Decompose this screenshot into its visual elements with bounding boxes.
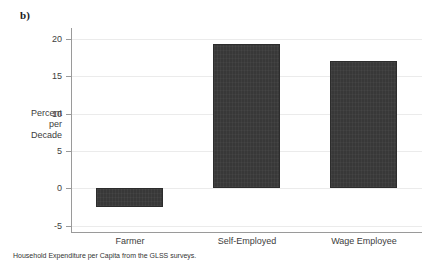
y-tick-mark--5 <box>66 226 71 227</box>
x-axis-line <box>71 232 422 233</box>
y-tick-label-5: 5 <box>22 147 62 156</box>
y-tick-mark-15 <box>66 76 71 77</box>
bar-self-employed <box>213 44 280 188</box>
y-tick-mark-5 <box>66 151 71 152</box>
y-tick-label-15: 15 <box>22 72 62 81</box>
x-axis-label-wage-employee: Wage Employee <box>304 236 424 246</box>
y-tick-mark-10 <box>66 114 71 115</box>
y-tick-label-20: 20 <box>22 35 62 44</box>
figure-panel-b: b) Percent per Decade 20151050-5 FarmerS… <box>0 0 431 264</box>
x-axis-label-self-employed: Self-Employed <box>187 236 307 246</box>
bar-wage-employee <box>330 61 397 188</box>
y-axis-title-line-3: Decade <box>6 130 62 141</box>
bar-farmer <box>96 188 163 207</box>
panel-letter: b) <box>20 9 30 21</box>
y-tick-label-10: 10 <box>22 110 62 119</box>
y-tick-mark-20 <box>66 39 71 40</box>
y-axis-title-line-2: per <box>6 119 62 130</box>
y-tick-mark-0 <box>66 188 71 189</box>
plot-area <box>71 28 422 233</box>
x-axis-label-farmer: Farmer <box>70 236 190 246</box>
gridline-20 <box>71 39 422 40</box>
y-tick-label--5: -5 <box>22 222 62 231</box>
figure-caption: Household Expenditure per Capita from th… <box>13 251 196 260</box>
y-axis-line <box>71 28 72 233</box>
y-tick-label-0: 0 <box>22 184 62 193</box>
gridline--5 <box>71 226 422 227</box>
